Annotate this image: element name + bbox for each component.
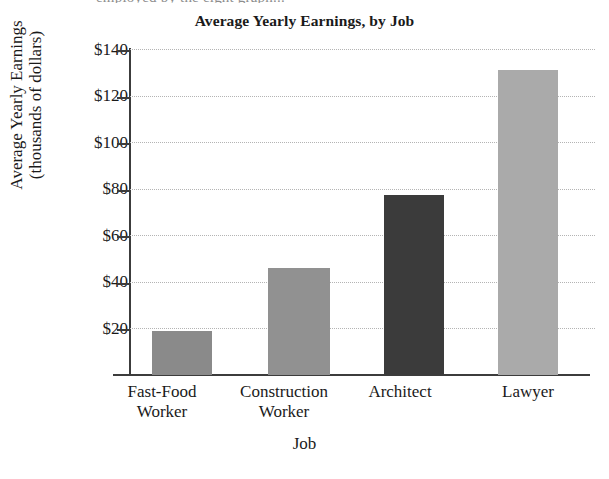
y-tick-label-140: $140 [42,41,128,58]
y-tick-mark-20 [117,329,130,331]
x-category-line2: Worker [112,402,212,422]
x-category-lawyer: Lawyer [480,382,576,402]
bar-lawyer [498,70,558,375]
chart-title: Average Yearly Earnings, by Job [0,12,609,30]
plot-area [130,49,595,375]
cutoff-text-above-figure: employed by the eight graph... [96,0,516,3]
x-axis-title: Job [0,434,609,454]
bar-architect [384,195,444,376]
y-tick-label-20: $20 [42,320,128,337]
bar-construction-worker [268,268,330,375]
y-tick-label-40: $40 [42,273,128,290]
x-category-line2: Worker [228,402,340,422]
y-tick-mark-80 [117,190,130,192]
y-tick-mark-100 [117,143,130,145]
y-tick-label-100: $100 [42,134,128,151]
y-tick-label-120: $120 [42,87,128,104]
y-tick-mark-60 [117,236,130,238]
bar-fast-food-worker [152,331,212,375]
x-category-construction-worker: Construction Worker [228,382,340,421]
x-category-line1: Construction [228,382,340,402]
y-axis-title-line1: Average Yearly Earnings [7,0,26,235]
gridline-140 [130,49,595,50]
y-tick-mark-40 [117,283,130,285]
y-tick-mark-120 [117,97,130,99]
y-axis-title: Average Yearly Earnings (thousands of do… [7,0,45,235]
y-tick-label-80: $80 [42,180,128,197]
x-category-line1: Architect [352,382,448,402]
y-tick-label-60: $60 [42,227,128,244]
x-category-architect: Architect [352,382,448,402]
x-category-line1: Lawyer [480,382,576,402]
y-axis-title-line2: (thousands of dollars) [26,0,45,235]
x-category-fast-food-worker: Fast-Food Worker [112,382,212,421]
x-category-line1: Fast-Food [112,382,212,402]
y-tick-mark-140 [117,50,130,52]
